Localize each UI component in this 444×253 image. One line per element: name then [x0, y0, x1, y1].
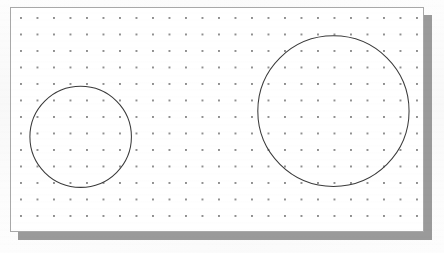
circle-right-large[interactable]: [258, 36, 409, 187]
circle-left-small[interactable]: [30, 86, 132, 187]
drawing-canvas-screenshot: [0, 0, 444, 253]
shapes-svg: [11, 8, 423, 231]
canvas-frame[interactable]: [10, 7, 424, 232]
shape-layer: [11, 8, 423, 231]
